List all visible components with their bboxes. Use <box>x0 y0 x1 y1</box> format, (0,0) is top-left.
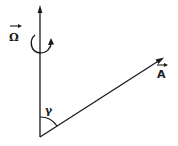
omega-label: Ω <box>9 24 22 44</box>
rotation-arrow-icon <box>31 35 54 53</box>
svg-text:γ: γ <box>45 104 53 117</box>
a-vector <box>40 58 164 138</box>
svg-text:A: A <box>157 68 166 81</box>
arrowhead-icon <box>156 58 165 65</box>
arrowhead-icon <box>38 5 43 13</box>
svg-text:Ω: Ω <box>9 31 19 44</box>
angle-gamma: γ <box>40 104 57 126</box>
vector-diagram: Ω A γ <box>0 0 178 146</box>
a-label: A <box>157 63 168 81</box>
